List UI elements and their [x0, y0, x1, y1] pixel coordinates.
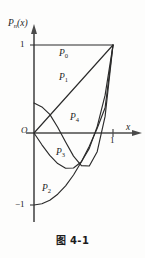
figure-container: Pn(x) x O 1 −1 1 P0 P1 P4 P3 P2 图 4-1 — [0, 0, 145, 258]
curve-label-p0: P0 — [59, 49, 68, 59]
figure-caption: 图 4-1 — [0, 232, 145, 247]
curve-p2 — [34, 45, 113, 205]
y-axis-arrow — [31, 24, 37, 34]
y-tick-label-one: 1 — [20, 40, 25, 49]
y-axis — [31, 24, 37, 222]
y-axis-label: Pn(x) — [8, 19, 28, 29]
x-axis-arrow — [132, 130, 142, 136]
y-tick-label-minus-one: −1 — [15, 200, 25, 209]
curve-label-p1: P1 — [59, 73, 68, 83]
curve-label-p2: P2 — [42, 184, 51, 194]
x-tick-label-one: 1 — [110, 136, 115, 145]
curve-p3 — [34, 45, 113, 168]
origin-label: O — [21, 126, 28, 135]
curve-label-p4: P4 — [70, 113, 79, 123]
curve-label-p3: P3 — [56, 148, 65, 158]
x-axis — [26, 130, 142, 136]
curve-p4 — [34, 45, 113, 166]
x-axis-label: x — [126, 123, 130, 133]
